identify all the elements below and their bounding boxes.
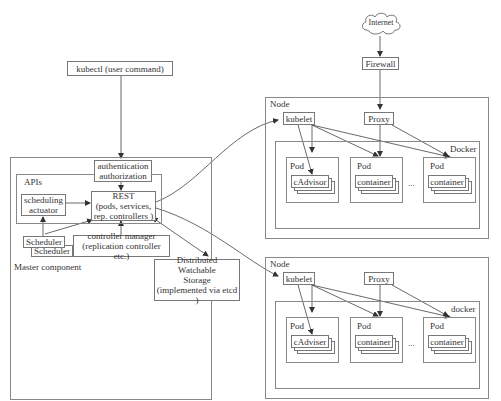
node-1-pod-1-container-stack: cAdvisor: [291, 175, 339, 197]
node-1-proxy-box: Proxy: [364, 112, 394, 125]
master-component-label: Master component: [14, 262, 81, 272]
ctrl-line-2: (replication controller etc.): [74, 241, 169, 261]
node-1-pod-3-label: Pod: [430, 161, 444, 171]
node-1-pod-3-container-stack: container: [428, 175, 476, 197]
node-1-pod-2-container-label: container: [357, 177, 390, 187]
node-2-pod-1-container-stack: cAdviser: [291, 335, 339, 357]
node-2-pod-2-container-label: container: [357, 337, 390, 347]
node-1-docker-label: Docker: [450, 144, 477, 154]
firewall-label: Firewall: [366, 59, 396, 69]
internet-cloud: Internet: [359, 10, 403, 36]
storage-line-3: Storage: [183, 275, 211, 285]
storage-line-2: Watchable: [178, 265, 216, 275]
node-1-pod-3-container-label: container: [430, 177, 463, 187]
scheduling-actuator-box: scheduling actuator: [21, 194, 66, 216]
scheduler-box-front: Scheduler: [23, 236, 65, 248]
ctrl-line-1: controller manager: [87, 231, 155, 241]
auth-line-2: authorization: [99, 171, 146, 181]
firewall-box: Firewall: [362, 57, 399, 70]
node-2-docker-label: docker: [451, 304, 476, 314]
apis-label: APIs: [24, 177, 42, 187]
distributed-storage-box: Distributed Watchable Storage (implement…: [154, 259, 240, 301]
sched-act-line-1: scheduling: [24, 195, 63, 205]
node-2-kubelet-label: kubelet: [286, 274, 313, 284]
auth-line-1: authentication: [98, 161, 149, 171]
node-1-ellipsis: ...: [408, 178, 415, 188]
node-2-pod-1-container-label: cAdviser: [294, 337, 327, 347]
kubectl-label: kubectl (user command): [76, 64, 163, 74]
node-2-kubelet-box: kubelet: [283, 272, 315, 285]
storage-line-4: (implemented via etcd ): [155, 285, 239, 305]
node-2-label: Node: [270, 259, 290, 269]
kubectl-box: kubectl (user command): [67, 61, 173, 76]
node-2-pod-1-label: Pod: [290, 321, 304, 331]
node-2-pod-3-container-stack: container: [428, 335, 476, 357]
rest-api-box: REST (pods, services, rep. controllers ): [91, 191, 156, 221]
node-1-proxy-label: Proxy: [368, 114, 390, 124]
rest-line-2: (pods, services,: [96, 201, 152, 211]
storage-line-1: Distributed: [177, 255, 218, 265]
internet-label: Internet: [359, 10, 403, 36]
scheduler-front-label: Scheduler: [26, 237, 62, 247]
node-2-proxy-label: Proxy: [368, 274, 390, 284]
node-1-pod-2-label: Pod: [357, 161, 371, 171]
node-1-label: Node: [270, 99, 290, 109]
controller-manager-box: controller manager (replication controll…: [73, 235, 170, 257]
node-2-ellipsis: ...: [408, 338, 415, 348]
sched-act-line-2: actuator: [29, 205, 58, 215]
node-1-pod-1-label: Pod: [290, 161, 304, 171]
node-1-kubelet-box: kubelet: [283, 112, 315, 125]
node-2-pod-3-container-label: container: [430, 337, 463, 347]
node-1-kubelet-label: kubelet: [286, 114, 313, 124]
rest-line-1: REST: [112, 191, 134, 201]
node-2-pod-2-container-stack: container: [355, 335, 403, 357]
rest-line-3: rep. controllers ): [94, 211, 154, 221]
node-2-proxy-box: Proxy: [364, 272, 394, 285]
node-2-pod-2-label: Pod: [357, 321, 371, 331]
node-1-pod-1-container-label: cAdvisor: [294, 177, 327, 187]
node-1-pod-2-container-stack: container: [355, 175, 403, 197]
authentication-authorization-box: authentication authorization: [94, 160, 152, 182]
node-2-pod-3-label: Pod: [430, 321, 444, 331]
